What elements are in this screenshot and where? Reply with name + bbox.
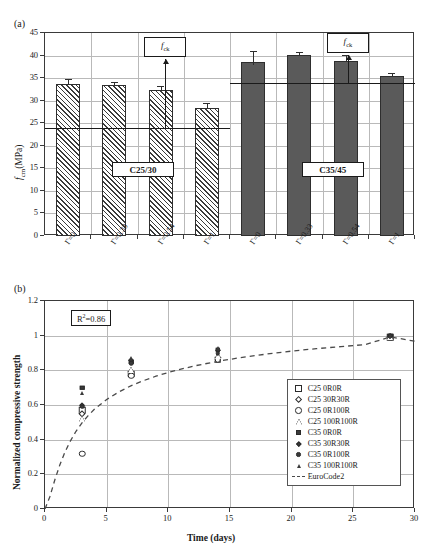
legend-label: C25 0R100R [306, 406, 350, 415]
gridline-horizontal [45, 213, 413, 214]
bar [334, 61, 358, 236]
panel-a-y-tick-mark [40, 77, 44, 78]
panel-b-x-tick-mark [291, 508, 292, 512]
data-point [216, 346, 220, 350]
data-point [80, 404, 85, 409]
gridline-horizontal [45, 191, 413, 192]
panel-b-y-tick-label: 1 [12, 330, 38, 340]
legend-item: C35 0R0R [292, 427, 395, 438]
gridline-vertical [138, 33, 139, 234]
error-bar-cap [203, 103, 210, 104]
panel-b-x-tick-mark [352, 508, 353, 512]
fck-arrowhead [346, 55, 352, 60]
concrete-grade-tag: C35/45 [302, 162, 364, 177]
legend-item: C25 100R100R [292, 416, 395, 427]
legend-item: C25 0R100R [292, 405, 395, 416]
bar [241, 62, 265, 236]
legend-label: C25 0R0R [306, 384, 342, 393]
panel-b-y-tick-label: 0 [12, 503, 38, 513]
panel-a-y-tick-label: 25 [12, 117, 38, 127]
legend-symbol-circle-filled-icon [292, 452, 306, 457]
gridline-vertical [323, 33, 324, 234]
data-point [388, 334, 392, 338]
legend-symbol-triangle-filled-icon [292, 464, 306, 468]
legend-label: C35 100R100R [306, 461, 358, 470]
legend-symbol-diamond-filled-icon [292, 442, 306, 446]
error-bar-cap [250, 51, 257, 52]
panel-b-y-tick-label: 0.8 [12, 364, 38, 374]
error-bar-cap [388, 73, 395, 74]
panel-a-x-tick-mark [368, 235, 369, 239]
gridline-vertical [184, 33, 185, 234]
gridline-vertical [276, 33, 277, 234]
panel-a-x-tick-mark [229, 235, 230, 239]
panel-a-y-tick-label: 5 [12, 207, 38, 217]
error-bar-cap [111, 82, 118, 83]
data-point [128, 367, 134, 373]
error-bar [253, 51, 254, 66]
panel-b-x-tick-label: 30 [410, 513, 419, 523]
data-point [129, 361, 134, 366]
legend-label: C35 0R100R [306, 450, 350, 459]
legend-label: C35 0R0R [306, 428, 342, 437]
fck-arrowhead [163, 59, 169, 64]
legend-item: EuroCode2 [292, 471, 395, 482]
panel-b-x-tick-mark [167, 508, 168, 512]
panel-a-y-tick-label: 35 [12, 72, 38, 82]
legend-symbol-square-filled-icon [292, 430, 306, 435]
gridline-vertical [91, 33, 92, 234]
fck-arrow [165, 59, 166, 128]
panel-b-x-tick-label: 15 [225, 513, 234, 523]
panel-a-y-tick-label: 15 [12, 162, 38, 172]
gridline-horizontal [45, 123, 413, 124]
bar [56, 84, 80, 236]
legend-symbol-diamond-open-icon [292, 397, 306, 402]
panel-b-y-tick-label: 0.4 [12, 434, 38, 444]
panel-b-label: (b) [14, 283, 26, 294]
data-point [79, 416, 85, 422]
fck-reference-line [230, 83, 415, 84]
legend-item: C35 0R100R [292, 449, 395, 460]
panel-a-y-tick-label: 45 [12, 27, 38, 37]
data-point [79, 450, 86, 457]
panel-b-x-tick-label: 25 [348, 513, 357, 523]
bar [380, 76, 404, 236]
data-point [80, 391, 84, 395]
panel-b-x-axis-label: Time (days) [0, 533, 422, 543]
legend-symbol-triangle-open-icon [292, 419, 306, 425]
panel-a-y-tick-label: 20 [12, 140, 38, 150]
data-point [129, 356, 133, 360]
legend-symbol-dashed-line-icon [292, 476, 306, 477]
panel-b-y-tick-label: 0.6 [12, 399, 38, 409]
panel-a-x-tick-mark [137, 235, 138, 239]
panel-a-x-tick-mark [414, 235, 415, 239]
panel-b-y-tick-label: 0.2 [12, 468, 38, 478]
gridline-vertical [230, 33, 231, 234]
panel-b-y-tick-mark [40, 473, 44, 474]
data-point [80, 385, 85, 390]
legend-symbol-square-open-icon [292, 385, 306, 392]
panel-a-x-tick-mark [275, 235, 276, 239]
gridline-horizontal [45, 146, 413, 147]
panel-b-x-tick-label: 5 [104, 513, 108, 523]
panel-a-y-tick-mark [40, 145, 44, 146]
panel-b-y-tick-mark [40, 300, 44, 301]
concrete-grade-tag: C25/30 [112, 162, 174, 177]
error-bar-cap [296, 52, 303, 53]
panel-b-y-tick-mark [40, 335, 44, 336]
legend-label: C35 30R30R [306, 439, 350, 448]
panel-a-y-tick-label: 0 [12, 230, 38, 240]
legend-symbol-circle-open-icon [292, 407, 306, 414]
fck-label-box: fck [144, 37, 186, 57]
legend-item: C35 100R100R [292, 460, 395, 471]
legend-label: C25 30R30R [306, 395, 350, 404]
panel-b-y-tick-mark [40, 404, 44, 405]
error-bar-cap [65, 79, 72, 80]
panel-a-y-tick-mark [40, 100, 44, 101]
gridline-horizontal [45, 101, 413, 102]
panel-b-x-tick-mark [44, 508, 45, 512]
panel-b-y-tick-mark [40, 369, 44, 370]
legend-item: C25 0R0R [292, 383, 395, 394]
panel-a-y-tick-label: 30 [12, 95, 38, 105]
legend-label: C25 100R100R [306, 417, 358, 426]
